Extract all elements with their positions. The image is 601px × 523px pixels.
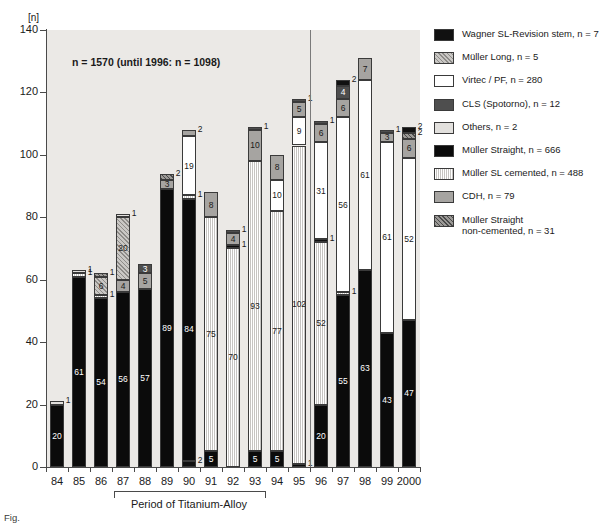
bar-segment-mstraight[interactable]: 57 <box>138 289 153 467</box>
bar-segment-mstraight[interactable]: 43 <box>380 333 395 467</box>
segment-value-label-outside: 2 <box>352 75 357 84</box>
segment-value-label: 6 <box>319 129 324 138</box>
bar-segment-mslcem[interactable] <box>336 292 351 295</box>
bar-segment-cdh[interactable]: 4 <box>226 233 241 245</box>
bar-86[interactable]: 546 <box>94 273 109 467</box>
bar-segment-mslcem[interactable] <box>182 195 197 198</box>
bar-segment-cdh[interactable]: 6 <box>402 139 417 158</box>
bar-segment-mstraight[interactable]: 20 <box>314 405 329 467</box>
legend-label: Others, n = 2 <box>462 121 517 133</box>
bar-segment-mslcem[interactable]: 93 <box>248 161 263 451</box>
bar-segment-virtec[interactable]: 10 <box>270 180 285 211</box>
bar-segment-mstraight[interactable]: 5 <box>204 451 219 467</box>
bar-segment-mslcem[interactable]: 52 <box>314 242 329 404</box>
bar-segment-msnc[interactable] <box>160 174 175 180</box>
bar-segment-cls[interactable] <box>226 230 241 233</box>
bar-segment-mstraight[interactable]: 5 <box>248 451 263 467</box>
bar-segment-cdh[interactable]: 8 <box>204 192 219 217</box>
bar-segment-cls[interactable] <box>292 99 307 102</box>
bar-segment-cdh[interactable] <box>182 130 197 136</box>
x-tick <box>332 467 333 472</box>
legend-item-cls[interactable]: CLS (Spotorno), n = 12 <box>434 98 599 111</box>
bar-segment-cdh[interactable]: 5 <box>292 102 307 118</box>
bar-87[interactable]: 56420 <box>116 214 131 467</box>
bar-segment-wagner[interactable] <box>314 239 329 242</box>
bar-segment-cdh[interactable]: 7 <box>358 58 373 80</box>
bar-segment-cdh[interactable]: 8 <box>270 155 285 180</box>
bar-segment-mstraight[interactable]: 47 <box>402 320 417 467</box>
bar-segment-virtec[interactable]: 61 <box>380 142 395 332</box>
bar-segment-virtec[interactable]: 56 <box>336 117 351 292</box>
bar-segment-mstraight[interactable]: 61 <box>72 277 87 467</box>
bar-segment-mstraight[interactable]: 20 <box>50 405 65 467</box>
bar-segment-msnc[interactable] <box>94 273 109 276</box>
bar-segment-mlong[interactable]: 20 <box>116 217 131 279</box>
legend-item-mslcem[interactable]: Müller SL cemented, n = 488 <box>434 167 599 180</box>
bar-segment-mstraight[interactable]: 5 <box>270 451 285 467</box>
bar-segment-cdh[interactable]: 10 <box>248 130 263 161</box>
bar-segment-mslcem[interactable]: 75 <box>204 217 219 451</box>
bar-99[interactable]: 43613 <box>380 130 395 467</box>
bar-91[interactable]: 5758 <box>204 192 219 467</box>
bar-93[interactable]: 59310 <box>248 127 263 467</box>
bar-segment-wagner[interactable] <box>336 80 351 86</box>
bar-segment-mstraight[interactable]: 84 <box>182 199 197 461</box>
bar-segment-others[interactable] <box>116 214 131 217</box>
legend-item-wagner[interactable]: Wagner SL-Revision stem, n = 7 <box>434 28 599 41</box>
bar-92[interactable]: 704 <box>226 230 241 467</box>
bar-segment-mstraight[interactable] <box>292 464 307 467</box>
x-tick <box>134 467 135 472</box>
bar-segment-others[interactable] <box>72 270 87 273</box>
bar-segment-cdh[interactable]: 6 <box>314 124 329 143</box>
bar-segment-virtec[interactable]: 31 <box>314 142 329 239</box>
bar-segment-mstraight[interactable]: 89 <box>160 189 175 467</box>
bar-94[interactable]: 577108 <box>270 155 285 467</box>
bar-89[interactable]: 893 <box>160 174 175 467</box>
bar-segment-mstraight[interactable]: 54 <box>94 298 109 467</box>
bar-segment-wagner[interactable] <box>402 127 417 133</box>
bar-segment-mslcem[interactable] <box>94 295 109 298</box>
bar-segment-mstraight[interactable]: 63 <box>358 270 373 467</box>
bar-segment-wagner[interactable] <box>182 461 197 467</box>
bar-segment-mslcem[interactable]: 70 <box>226 248 241 467</box>
bar-segment-cdh[interactable]: 6 <box>336 99 351 118</box>
bar-segment-mlong[interactable]: 6 <box>94 277 109 296</box>
bar-segment-virtec[interactable]: 61 <box>358 80 373 270</box>
bar-segment-mslcem[interactable] <box>72 273 87 276</box>
legend-item-cdh[interactable]: CDH, n = 79 <box>434 190 599 203</box>
bar-segment-mstraight[interactable]: 55 <box>336 295 351 467</box>
bar-2000[interactable]: 47526 <box>402 127 417 467</box>
bar-segment-cls[interactable] <box>314 121 329 124</box>
bar-segment-cdh[interactable]: 5 <box>138 273 153 289</box>
bar-segment-cls[interactable]: 4 <box>336 86 351 98</box>
legend-item-mstraight[interactable]: Müller Straight, n = 666 <box>434 144 599 157</box>
bar-segment-mstraight[interactable] <box>226 245 241 248</box>
bar-segment-cls[interactable] <box>248 127 263 130</box>
bar-segment-cdh[interactable]: 3 <box>380 133 395 142</box>
bar-segment-cls[interactable]: 3 <box>138 264 153 273</box>
bar-segment-mslcem[interactable]: 77 <box>270 211 285 451</box>
bar-segment-virtec[interactable]: 52 <box>402 158 417 320</box>
bar-85[interactable]: 61 <box>72 270 87 467</box>
legend-item-mlong[interactable]: Müller Long, n = 5 <box>434 51 599 64</box>
legend-item-virtec[interactable]: Virtec / PF, n = 280 <box>434 74 599 87</box>
bar-segment-mstraight[interactable]: 56 <box>116 292 131 467</box>
bar-segment-virtec[interactable]: 19 <box>182 136 197 195</box>
bar-segment-others[interactable] <box>50 401 65 404</box>
bar-95[interactable]: 10295 <box>292 99 307 467</box>
bar-88[interactable]: 5753 <box>138 264 153 467</box>
legend-item-others[interactable]: Others, n = 2 <box>434 121 599 134</box>
bar-97[interactable]: 555664 <box>336 80 351 467</box>
bar-segment-cls[interactable] <box>380 130 395 133</box>
bar-84[interactable]: 20 <box>50 401 65 467</box>
bar-98[interactable]: 63617 <box>358 58 373 467</box>
bar-segment-cdh[interactable]: 3 <box>160 180 175 189</box>
bar-segment-msnc[interactable] <box>402 133 417 139</box>
bar-96[interactable]: 2052316 <box>314 121 329 467</box>
bar-segment-virtec[interactable]: 9 <box>292 117 307 145</box>
bar-90[interactable]: 8419 <box>182 130 197 467</box>
legend-swatch-mstraight-icon <box>434 145 454 157</box>
bar-segment-cdh[interactable]: 4 <box>116 280 131 292</box>
legend-item-msnc[interactable]: Müller Straight non-cemented, n = 31 <box>434 214 599 237</box>
bar-segment-mslcem[interactable]: 102 <box>292 146 307 464</box>
